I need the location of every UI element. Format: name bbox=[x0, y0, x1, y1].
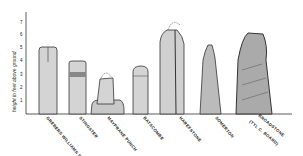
svg-text:STINGSTER: STINGSTER bbox=[78, 115, 99, 139]
svg-text:BROADSTONE: BROADSTONE bbox=[257, 113, 285, 138]
svg-text:1: 1 bbox=[20, 98, 23, 103]
y-axis-label: height in feet above ground bbox=[11, 51, 17, 112]
svg-text:SOMERTON: SOMERTON bbox=[214, 115, 235, 139]
svg-text:BATSCOMBE: BATSCOMBE bbox=[142, 115, 165, 141]
standing-stones-diagram: 1 2 3 4 5 6 7 height in feet above groun… bbox=[0, 0, 303, 156]
svg-text:5: 5 bbox=[20, 45, 23, 50]
svg-text:MAYPRANE PUNCH: MAYPRANE PUNCH bbox=[106, 115, 138, 152]
stone-labels: GREBERS WILLIAMS STONE STINGSTER MAYPRAN… bbox=[45, 113, 285, 156]
stone-4 bbox=[133, 66, 148, 114]
svg-text:6: 6 bbox=[20, 32, 23, 37]
svg-text:(TYL C. BOARD): (TYL C. BOARD) bbox=[248, 119, 280, 147]
stone-7 bbox=[236, 33, 272, 114]
stone-5 bbox=[160, 22, 184, 114]
svg-text:7: 7 bbox=[20, 20, 23, 25]
stone-6 bbox=[200, 45, 221, 114]
stone-2 bbox=[69, 61, 86, 114]
svg-text:3: 3 bbox=[20, 72, 23, 77]
svg-text:4: 4 bbox=[20, 58, 23, 63]
stone-1 bbox=[39, 47, 57, 114]
svg-text:HAREFSTONE: HAREFSTONE bbox=[178, 115, 202, 143]
y-ticks: 1 2 3 4 5 6 7 bbox=[20, 20, 23, 103]
svg-text:2: 2 bbox=[20, 85, 23, 90]
diagram-canvas: 1 2 3 4 5 6 7 height in feet above groun… bbox=[0, 0, 303, 156]
stone-3 bbox=[91, 73, 124, 114]
